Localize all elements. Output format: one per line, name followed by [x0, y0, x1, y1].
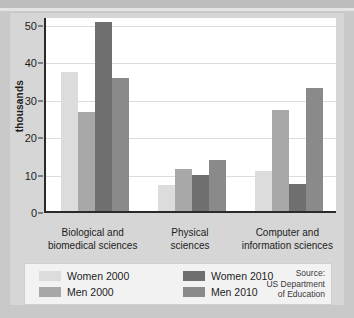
x-category-label-line: Biological and: [44, 227, 141, 240]
y-tick-mark: [38, 100, 43, 101]
bar: [192, 175, 209, 211]
plot-area-wrapper: thousands 01020304050: [44, 18, 336, 225]
bar: [175, 169, 192, 211]
y-tick-label: 40: [17, 57, 37, 69]
legend-swatch: [183, 271, 205, 281]
legend-label: Men 2000: [67, 286, 114, 298]
bar-group: [46, 18, 143, 211]
bar-group: [143, 18, 240, 211]
x-category-label-line: Physical: [141, 227, 238, 240]
legend-label: Women 2000: [67, 270, 129, 282]
legend-item: Men 2000: [39, 286, 114, 298]
y-tick-label: 30: [17, 95, 37, 107]
x-category-label: Computer andinformation sciences: [239, 227, 336, 252]
bar: [255, 171, 272, 212]
x-category-label-line: Computer and: [239, 227, 336, 240]
bar: [78, 112, 95, 211]
legend-swatch: [39, 271, 61, 281]
y-tick-mark: [38, 138, 43, 139]
y-tick-label: 50: [17, 20, 37, 32]
y-tick-mark: [38, 25, 43, 26]
bar: [61, 72, 78, 211]
legend-swatch: [183, 287, 205, 297]
x-axis-category-labels: Biological andbiomedical sciencesPhysica…: [44, 227, 336, 261]
x-category-label-line: biomedical sciences: [44, 240, 141, 253]
source-line: Source:: [239, 268, 325, 279]
chart-figure: thousands 01020304050 Biological andbiom…: [0, 0, 354, 318]
bar: [289, 184, 306, 211]
chart-legend: Women 2000Women 2010Men 2000Men 2010 Sou…: [24, 263, 332, 305]
bar: [272, 110, 289, 211]
y-tick-label: 0: [17, 207, 37, 219]
bar-series-container: [46, 18, 336, 211]
source-note: Source:US Departmentof Education: [239, 268, 325, 300]
x-category-label: Biological andbiomedical sciences: [44, 227, 141, 252]
bar-group: [241, 18, 338, 211]
bar: [95, 22, 112, 211]
source-line: of Education: [239, 289, 325, 300]
legend-item: Women 2000: [39, 270, 129, 282]
bar: [158, 185, 175, 211]
x-category-label: Physicalsciences: [141, 227, 238, 252]
y-tick-mark: [38, 213, 43, 214]
top-separator: [0, 8, 354, 11]
source-line: US Department: [239, 279, 325, 290]
y-tick-mark: [38, 175, 43, 176]
y-tick-label: 20: [17, 132, 37, 144]
bar: [209, 160, 226, 211]
legend-swatch: [39, 287, 61, 297]
y-axis-ticks: 01020304050: [17, 18, 41, 213]
x-category-label-line: sciences: [141, 240, 238, 253]
bar: [112, 78, 129, 211]
x-category-label-line: information sciences: [239, 240, 336, 253]
y-tick-mark: [38, 63, 43, 64]
y-tick-label: 10: [17, 170, 37, 182]
chart-panel: thousands 01020304050 Biological andbiom…: [10, 13, 344, 305]
plot-area: [44, 18, 336, 213]
top-band: [0, 0, 354, 8]
bar: [306, 88, 323, 211]
